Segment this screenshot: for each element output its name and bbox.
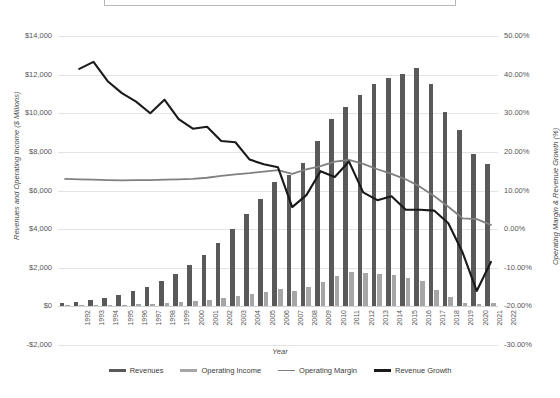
legend-swatch-icon <box>109 369 126 372</box>
legend-label: Revenues <box>130 366 164 375</box>
legend-item-revenues[interactable]: Revenues <box>109 366 164 375</box>
legend-item-operating-income[interactable]: Operating Income <box>180 366 261 375</box>
line-revenue-growth <box>79 62 491 291</box>
legend-label: Revenue Growth <box>395 366 451 375</box>
legend-item-revenue-growth[interactable]: Revenue Growth <box>374 366 451 375</box>
legend-swatch-icon <box>278 370 295 372</box>
legend-swatch-icon <box>180 369 197 372</box>
legend-item-operating-margin[interactable]: Operating Margin <box>278 366 357 375</box>
legend-swatch-icon <box>374 369 391 371</box>
chart-canvas: Revenues and Operating Income ($ Million… <box>0 0 560 398</box>
line-series-overlay <box>0 0 560 398</box>
legend-label: Operating Margin <box>299 366 357 375</box>
legend-label: Operating Income <box>201 366 261 375</box>
chart-legend: RevenuesOperating IncomeOperating Margin… <box>0 366 560 375</box>
